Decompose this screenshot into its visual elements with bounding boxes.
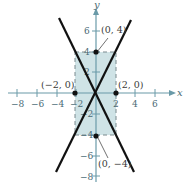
- x-tick-label: −8: [11, 99, 25, 109]
- point-0-neg4: [93, 133, 98, 138]
- x-axis-label: x: [177, 87, 183, 98]
- y-tick-label: 6: [84, 26, 90, 36]
- y-tick-label: −4: [80, 130, 94, 140]
- point-label-0-4: (0, 4): [101, 24, 127, 35]
- point-0-4: [93, 49, 98, 54]
- x-tick-label: 2: [113, 99, 119, 109]
- asymptote-positive-slope: [56, 20, 131, 172]
- point-neg2-0: [72, 90, 77, 95]
- point-label-0-neg4: (0, −4): [98, 158, 132, 169]
- x-tick-label: 6: [152, 99, 158, 109]
- x-tick-label: −4: [51, 99, 65, 109]
- y-axis-label: y: [93, 0, 100, 10]
- y-tick-label: −8: [80, 172, 94, 182]
- leader-line-0-neg4: [97, 136, 108, 158]
- point-2-0: [113, 90, 118, 95]
- x-tick-label: 4: [132, 99, 138, 109]
- y-tick-label: −6: [80, 151, 94, 161]
- point-label-neg2-0: (−2, 0): [41, 79, 75, 90]
- x-tick-label: −2: [70, 99, 83, 109]
- y-tick-label: 4: [84, 47, 90, 57]
- point-label-2-0: (2, 0): [118, 79, 144, 90]
- leader-line-0-4: [97, 38, 108, 52]
- x-axis-arrow-icon: [169, 90, 176, 96]
- diagram-canvas: −8 −6 −4 −2 2 4 6 6 4 2 −2 −4 −6 −8 x y …: [0, 0, 186, 187]
- x-tick-label: −6: [31, 99, 45, 109]
